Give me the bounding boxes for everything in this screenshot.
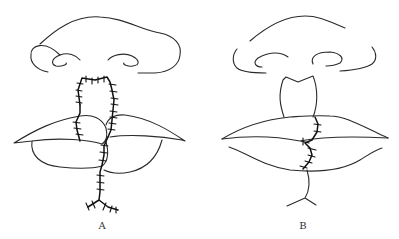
panel-b-right-ala [340,47,376,71]
panel-a-label: A [98,220,105,231]
panel-b-nose-dorsum [250,16,345,41]
diagram-canvas [0,0,399,239]
panel-b-label: B [299,220,306,231]
panel-a-midline-suture [88,137,118,210]
panel-a-flap-suture [78,77,114,137]
panel-a-lower-lip-left [32,141,108,168]
panel-a-drawing [14,17,185,213]
panel-b-upper-lip [222,116,388,139]
panel-b-lip-line [222,137,388,141]
panel-a-upper-lip-left [14,116,107,145]
panel-a-lower-lip-right [104,140,162,173]
panel-a-stitches [73,76,118,213]
panel-a-right-nostril [108,54,138,66]
panel-b-right-nostril [312,52,342,66]
panel-b-chin-line [287,170,316,206]
panel-b-left-nostril [255,53,288,67]
panel-b-drawing [222,16,388,206]
panel-b-columella [280,76,317,117]
panel-b-left-ala [233,49,266,73]
panel-a-upper-lip-right [106,115,185,141]
panel-a-left-nostril [53,54,80,66]
